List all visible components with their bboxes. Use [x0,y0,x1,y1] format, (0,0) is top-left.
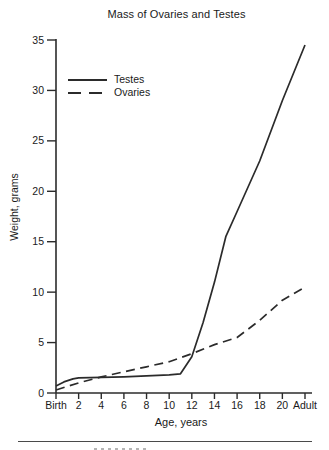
x-tick-label: 16 [231,399,243,411]
dashed-line-sample [68,92,107,94]
y-tick-label: 15 [32,235,44,247]
x-tick-label: 12 [186,399,198,411]
y-tick-label: 0 [38,387,44,399]
x-tick-label: 20 [277,399,289,411]
x-tick-label: 8 [144,399,150,411]
y-tick-label: 10 [32,286,44,298]
y-tick-label: 25 [32,134,44,146]
y-tick-label: 5 [38,336,44,348]
legend-item-testes: Testes [68,73,150,86]
figure: Mass of Ovaries and Testes 0510152025303… [0,0,329,450]
y-tick-label: 35 [32,34,44,46]
y-tick-label: 30 [32,84,44,96]
x-tick-label: Birth [45,399,67,411]
legend-label-ovaries: Ovaries [114,86,150,99]
x-tick-label: 18 [254,399,266,411]
x-tick-label: Adult [293,399,317,411]
footer-divider [18,441,312,442]
y-tick-label: 20 [32,185,44,197]
x-axis-label: Age, years [56,416,306,428]
solid-line-sample [68,79,107,81]
legend-item-ovaries: Ovaries [68,86,150,99]
x-tick-label: 14 [209,399,221,411]
x-tick-label: 2 [76,399,82,411]
x-tick-label: 4 [98,399,104,411]
x-tick-label: 6 [121,399,127,411]
y-axis-label: Weight, grams [8,173,20,241]
legend-label-testes: Testes [114,73,144,86]
x-tick-label: 10 [163,399,175,411]
plot-svg: 05101520253035Birth2468101214161820Adult [0,0,329,450]
legend: Testes Ovaries [68,73,150,99]
